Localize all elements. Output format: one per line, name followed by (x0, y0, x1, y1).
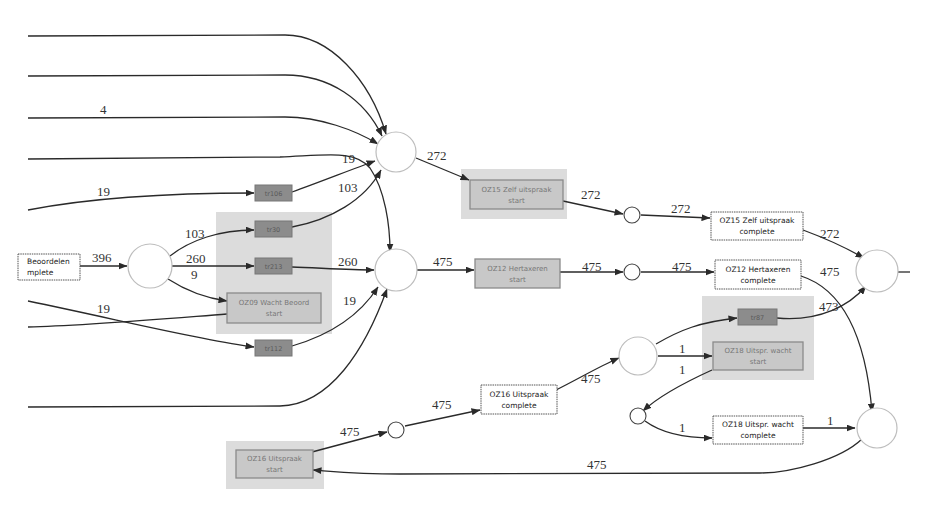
edge-ps3-oz16complete (405, 410, 480, 426)
transition-label: tr112 (265, 345, 283, 353)
transition-label: complete (739, 227, 774, 236)
transition-label: start (266, 310, 283, 318)
place-p1[interactable] (376, 132, 416, 172)
edge-label: 475 (432, 397, 452, 412)
transition-oz16-complete[interactable]: OZ16 Uitspraak complete (481, 385, 557, 414)
place-small-4[interactable] (630, 408, 646, 424)
place-pR1[interactable] (856, 250, 898, 292)
edge-oz15start-ps1 (563, 201, 623, 214)
transition-label: OZ15 Zelf uitspraak (720, 216, 796, 225)
edge-label: 4 (100, 102, 107, 117)
transition-label: start (508, 197, 525, 205)
transition-label: Beoordelen (27, 257, 70, 266)
transition-label: OZ18 Uitspr. wacht (724, 347, 791, 355)
transition-label: start (750, 358, 767, 366)
transition-tau-213[interactable]: tr213 (255, 258, 292, 274)
edge-label: 272 (581, 187, 601, 202)
edge-label: 1 (679, 341, 686, 356)
place-small-3[interactable] (388, 422, 404, 438)
edge-oz09-out (28, 314, 227, 327)
transition-label: start (509, 276, 526, 284)
edge-in-7 (28, 289, 387, 407)
edge-label: 272 (820, 226, 840, 241)
process-model-diagram: 4 19 19 103 396 103 260 9 260 19 19 272 … (0, 0, 933, 508)
transition-label: tr30 (267, 226, 281, 234)
edge-label: 1 (827, 413, 834, 428)
transition-oz15-start[interactable]: OZ15 Zelf uitspraak start (470, 180, 563, 209)
transition-oz18-start[interactable]: OZ18 Uitspr. wacht start (713, 342, 803, 370)
edge-label: 475 (820, 264, 840, 279)
edge-label: 475 (340, 424, 360, 439)
edge-tau106-p1 (292, 161, 375, 192)
place-small-1[interactable] (624, 207, 640, 223)
edge-label: 103 (185, 226, 205, 241)
transition-oz12-complete[interactable]: OZ12 Hertaxeren complete (715, 260, 801, 289)
transition-label: start (266, 466, 283, 474)
transition-tau-112[interactable]: tr112 (255, 340, 292, 356)
transition-label: mplete (27, 268, 54, 277)
transition-beoordelen-complete[interactable]: Beoordelen mplete (18, 254, 80, 280)
edge-label: 19 (97, 301, 110, 316)
transition-tau-106[interactable]: tr106 (255, 185, 292, 201)
edge-label: 1 (679, 362, 686, 377)
transition-oz16-start[interactable]: OZ16 Uitspraak start (236, 450, 313, 478)
transition-label: OZ12 Hertaxeren (487, 265, 548, 273)
edge-label: 103 (338, 180, 358, 195)
transition-tau-30[interactable]: tr30 (255, 221, 292, 237)
edge-label: 272 (671, 201, 691, 216)
edge-in-1 (28, 35, 386, 134)
place-p3[interactable] (619, 337, 657, 375)
edge-label: 475 (672, 259, 692, 274)
edge-label: 475 (581, 371, 601, 386)
edge-label: 475 (587, 457, 607, 472)
transition-label: OZ18 Uitspr. wacht (722, 420, 794, 429)
transition-label: tr87 (751, 314, 765, 322)
edge-label: 475 (433, 254, 453, 269)
edge-label: 9 (191, 267, 198, 282)
transition-label: tr106 (265, 190, 283, 198)
edge-label: 19 (343, 293, 356, 308)
edge-label: 260 (338, 254, 358, 269)
place-p2[interactable] (375, 249, 417, 291)
transition-label: complete (740, 276, 775, 285)
transition-oz15-complete[interactable]: OZ15 Zelf uitspraak complete (711, 212, 803, 240)
edge-label: 473 (819, 299, 839, 314)
transition-oz12-start[interactable]: OZ12 Hertaxeren start (475, 259, 560, 288)
edge-in-4 (28, 155, 390, 252)
edge-label: 272 (427, 148, 447, 163)
transition-label: complete (501, 401, 536, 410)
place-small-2[interactable] (624, 264, 640, 280)
transition-label: tr213 (265, 263, 283, 271)
edge-in-2 (28, 75, 382, 136)
edge-label: 475 (582, 259, 602, 274)
edge-oz18start-ps4 (643, 370, 712, 411)
edge-label: 396 (92, 250, 112, 265)
edge-label: 19 (97, 184, 110, 199)
transition-label: OZ12 Hertaxeren (726, 265, 791, 274)
edge-label: 260 (186, 251, 206, 266)
transition-label: OZ09 Wacht Beoord (239, 299, 309, 307)
transition-tau-87[interactable]: tr87 (738, 309, 777, 325)
edge-label: 19 (342, 151, 355, 166)
transition-label: OZ16 Uitspraak (247, 455, 303, 463)
transition-oz09-start[interactable]: OZ09 Wacht Beoord start (227, 293, 321, 323)
edge-label: 1 (679, 420, 686, 435)
edge-in-5 (28, 193, 254, 210)
transition-label: OZ16 Uitspraak (490, 390, 549, 399)
transition-label: complete (740, 431, 775, 440)
place-pR2[interactable] (857, 408, 897, 448)
transition-oz18-complete[interactable]: OZ18 Uitspr. wacht complete (713, 416, 803, 444)
edge-in-3 (28, 117, 378, 144)
transition-label: OZ15 Zelf uitspraak (482, 186, 553, 194)
place-pL[interactable] (128, 244, 172, 288)
